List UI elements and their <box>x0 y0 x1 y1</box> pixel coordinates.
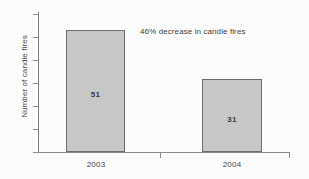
bar-value-2003: 51 <box>67 90 124 99</box>
chart-annotation: 46% decrease in candle fires <box>140 27 246 36</box>
bar-2003: 51 <box>66 30 125 152</box>
y-axis-tick <box>33 83 38 84</box>
x-axis-tick <box>289 153 290 158</box>
bar-value-2004: 31 <box>203 115 261 124</box>
y-axis-tick <box>33 37 38 38</box>
y-axis-title: Number of candle fires <box>20 7 29 147</box>
y-axis-tick <box>33 60 38 61</box>
y-axis-tick <box>33 14 38 15</box>
y-axis-tick <box>33 129 38 130</box>
y-axis-tick <box>33 106 38 107</box>
y-axis-line <box>38 12 39 153</box>
bar-2004: 31 <box>202 79 262 152</box>
x-axis-label-2004: 2004 <box>202 160 262 169</box>
candle-fires-bar-chart: Number of candle fires 51 31 2003 2004 4… <box>0 0 309 179</box>
x-axis-line <box>38 152 290 153</box>
x-axis-label-2003: 2003 <box>66 160 126 169</box>
x-axis-tick <box>160 153 161 158</box>
